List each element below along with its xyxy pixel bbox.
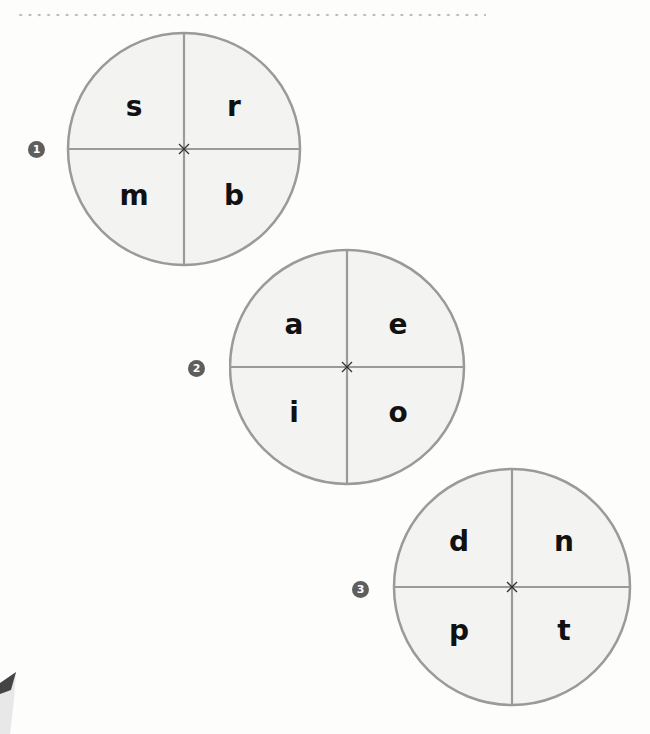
pencil-tip-icon [0, 672, 20, 734]
letter-top-left: d [439, 527, 479, 557]
letter-top-right: n [544, 527, 584, 557]
letter-bottom-left: m [114, 181, 154, 211]
letter-bottom-right: t [544, 616, 584, 646]
letter-bottom-left: p [439, 616, 479, 646]
letter-bottom-right: b [214, 181, 254, 211]
number-badge-3: 3 [352, 581, 369, 598]
letter-top-left: a [274, 310, 314, 340]
letter-wheel-2 [229, 248, 469, 492]
letter-bottom-left: i [274, 398, 314, 428]
letter-top-right: e [378, 310, 418, 340]
letter-top-left: s [114, 92, 154, 122]
letter-bottom-right: o [378, 398, 418, 428]
number-badge-1: 1 [28, 141, 45, 158]
number-badge-2: 2 [188, 360, 205, 377]
letter-top-right: r [214, 92, 254, 122]
dotted-divider [16, 13, 486, 17]
letter-wheel-1 [66, 31, 304, 273]
letter-wheel-3 [392, 464, 634, 712]
